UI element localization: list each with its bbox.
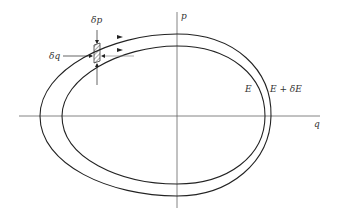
q-axis-label: q [314,119,320,129]
arrow-left-icon [101,54,105,58]
delta-p-label: δp [91,15,102,25]
phase-element-hatched [94,43,100,63]
arrow-right-icon [89,54,93,58]
inner-energy-curve [62,46,265,184]
phase-space-diagram: δp δq p q E E + δE [0,0,338,216]
delta-q-label: δq [49,51,60,61]
arrow-up-icon [95,63,99,67]
arrow-icon [117,35,123,39]
outer-energy-curve [40,34,271,196]
inner-curve-label: E [244,84,252,94]
arrow-icon [117,48,123,52]
outer-curve-label: E + δE [269,84,302,94]
p-axis-label: p [181,11,187,21]
